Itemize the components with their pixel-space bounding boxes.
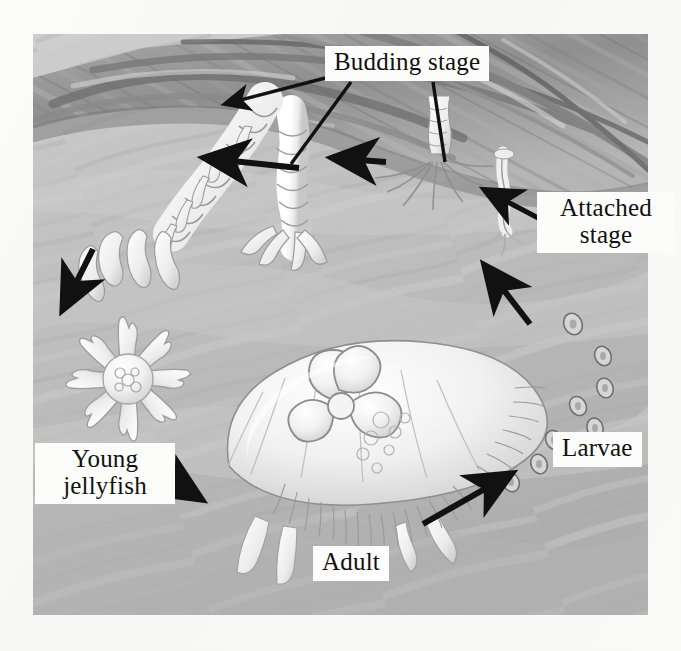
label-adult: Adult — [313, 546, 389, 581]
label-young-jellyfish: Young jellyfish — [35, 443, 175, 504]
illustration-plate — [33, 34, 648, 615]
label-larvae: Larvae — [553, 432, 642, 467]
illustration-svg — [33, 34, 648, 615]
figure-page: Budding stage Attached stage Young jelly… — [0, 0, 681, 651]
arrow-attached-to-budding — [333, 158, 386, 162]
label-budding-stage: Budding stage — [325, 46, 489, 81]
label-attached-stage: Attached stage — [537, 192, 675, 253]
